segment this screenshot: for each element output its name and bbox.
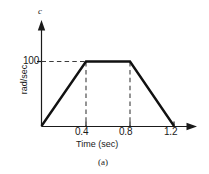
y-axis-title: rad/sec xyxy=(20,52,29,108)
trapezoidal-velocity-profile-figure: c 100 rad/sec 0.4 0.8 1.2 Time (sec) (a) xyxy=(0,0,209,174)
figure-caption: (a) xyxy=(98,158,108,167)
x-axis-arrowhead xyxy=(187,123,198,130)
x-tick-label-0.4: 0.4 xyxy=(75,127,88,137)
x-tick-label-0.8: 0.8 xyxy=(119,127,132,137)
y-axis-symbol-label: c xyxy=(38,7,42,16)
x-tick-label-1.2: 1.2 xyxy=(164,127,177,137)
velocity-profile-curve xyxy=(42,62,175,127)
x-axis-title: Time (sec) xyxy=(76,140,118,149)
y-axis-arrowhead xyxy=(38,20,45,31)
